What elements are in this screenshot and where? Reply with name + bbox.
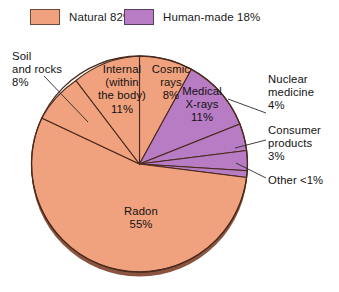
chart-canvas: Natural 82% Human-made 18% bbox=[0, 0, 339, 292]
slice-label-internal: Internal (within the body) 11% bbox=[94, 63, 150, 116]
slice-label-medical-xrays: Medical X-rays 11% bbox=[174, 85, 230, 125]
pie-chart: Soil and rocks 8% Internal (within the b… bbox=[0, 0, 339, 292]
slice-label-consumer-products: Consumer products 3% bbox=[268, 124, 321, 164]
slice-label-nuclear-medicine: Nuclear medicine 4% bbox=[268, 73, 314, 113]
slice-label-other: Other <1% bbox=[268, 174, 323, 187]
slice-label-radon: Radon 55% bbox=[111, 205, 171, 231]
slice-label-soil-and-rocks: Soil and rocks 8% bbox=[12, 50, 62, 90]
